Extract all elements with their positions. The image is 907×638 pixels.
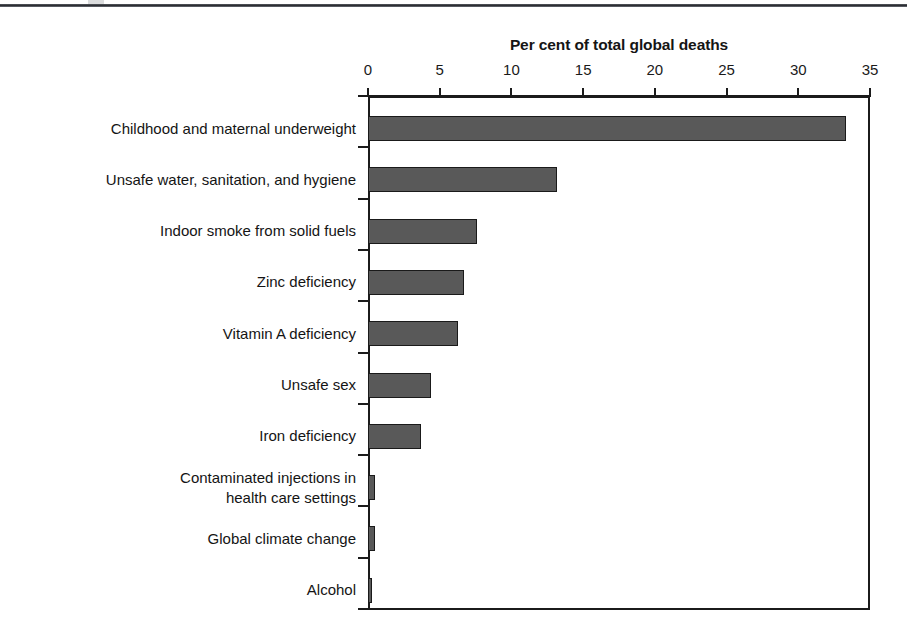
bar bbox=[368, 578, 372, 603]
category-label: Alcohol bbox=[0, 580, 356, 600]
x-tick-label: 35 bbox=[862, 61, 879, 78]
y-tick-mark bbox=[358, 557, 368, 559]
x-tick-mark bbox=[654, 88, 656, 96]
chart-title: Per cent of total global deaths bbox=[368, 36, 870, 54]
x-tick-label: 20 bbox=[647, 61, 664, 78]
category-label-line: Contaminated injections in bbox=[0, 468, 356, 488]
x-tick-mark bbox=[510, 88, 512, 96]
bar bbox=[368, 526, 375, 551]
bar-chart-figure: Per cent of total global deaths 05101520… bbox=[0, 0, 907, 638]
x-tick-label: 10 bbox=[503, 61, 520, 78]
y-tick-mark bbox=[358, 352, 368, 354]
category-label: Iron deficiency bbox=[0, 426, 356, 446]
category-label: Unsafe water, sanitation, and hygiene bbox=[0, 170, 356, 190]
category-label-line: Iron deficiency bbox=[0, 426, 356, 446]
category-axis-labels: Childhood and maternal underweightUnsafe… bbox=[0, 0, 356, 638]
bar bbox=[368, 116, 846, 141]
category-label-line: Zinc deficiency bbox=[0, 272, 356, 292]
category-label: Vitamin A deficiency bbox=[0, 324, 356, 344]
x-tick-label: 15 bbox=[575, 61, 592, 78]
category-label-line: Indoor smoke from solid fuels bbox=[0, 221, 356, 241]
bar bbox=[368, 167, 557, 192]
x-tick-mark bbox=[869, 88, 871, 96]
bar bbox=[368, 219, 477, 244]
category-label: Zinc deficiency bbox=[0, 272, 356, 292]
y-tick-mark bbox=[358, 608, 368, 610]
x-tick-mark bbox=[582, 88, 584, 96]
category-label: Contaminated injections inhealth care se… bbox=[0, 468, 356, 508]
category-label-line: Vitamin A deficiency bbox=[0, 324, 356, 344]
x-tick-label: 0 bbox=[364, 61, 372, 78]
x-tick-label: 30 bbox=[790, 61, 807, 78]
y-tick-mark bbox=[358, 505, 368, 507]
y-tick-mark bbox=[358, 198, 368, 200]
bar bbox=[368, 475, 375, 500]
bar bbox=[368, 373, 431, 398]
plot-area bbox=[370, 98, 870, 610]
x-tick-mark bbox=[726, 88, 728, 96]
category-label-line: Unsafe water, sanitation, and hygiene bbox=[0, 170, 356, 190]
x-tick-mark bbox=[797, 88, 799, 96]
category-label-line: health care settings bbox=[0, 488, 356, 508]
x-tick-label: 5 bbox=[436, 61, 444, 78]
x-tick-mark bbox=[439, 88, 441, 96]
category-label: Global climate change bbox=[0, 529, 356, 549]
bar bbox=[368, 424, 421, 449]
category-label-line: Childhood and maternal underweight bbox=[0, 119, 356, 139]
category-label-line: Unsafe sex bbox=[0, 375, 356, 395]
bar bbox=[368, 270, 464, 295]
y-tick-mark bbox=[358, 300, 368, 302]
x-tick-label: 25 bbox=[718, 61, 735, 78]
category-label-line: Global climate change bbox=[0, 529, 356, 549]
y-tick-mark bbox=[358, 454, 368, 456]
category-label-line: Alcohol bbox=[0, 580, 356, 600]
y-tick-mark bbox=[358, 249, 368, 251]
bar bbox=[368, 321, 458, 346]
category-label: Childhood and maternal underweight bbox=[0, 119, 356, 139]
category-label: Indoor smoke from solid fuels bbox=[0, 221, 356, 241]
y-tick-mark bbox=[358, 146, 368, 148]
y-tick-mark bbox=[358, 95, 368, 97]
y-tick-mark bbox=[358, 403, 368, 405]
category-label: Unsafe sex bbox=[0, 375, 356, 395]
